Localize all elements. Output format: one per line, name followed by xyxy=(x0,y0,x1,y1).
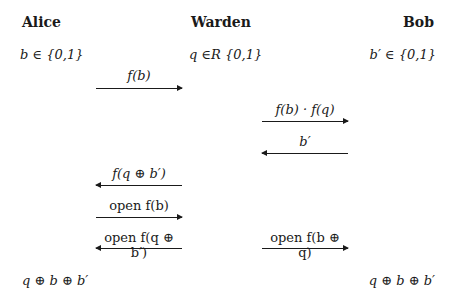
message-label-4: f(q ⊕ b′) xyxy=(96,166,182,181)
message-label-6: open f(q ⊕ b′) xyxy=(96,230,182,260)
message-label-3: b′ xyxy=(262,134,348,149)
bob-init: b′ ∈ {0,1} xyxy=(370,47,436,62)
arrow-right-icon xyxy=(262,121,348,122)
warden-init: q ∈R {0,1} xyxy=(189,47,262,62)
alice-init: b ∈ {0,1} xyxy=(20,47,83,62)
arrow-left-icon xyxy=(262,153,348,154)
header-alice: Alice xyxy=(22,14,61,30)
message-label-2: f(b) · f(q) xyxy=(262,102,348,117)
header-bob: Bob xyxy=(403,14,434,30)
alice-result: q ⊕ b ⊕ b′ xyxy=(22,273,88,288)
arrow-right-icon xyxy=(262,248,348,249)
message-label-7: open f(b ⊕ q) xyxy=(262,230,348,260)
arrow-right-icon xyxy=(96,88,182,89)
header-warden: Warden xyxy=(191,14,251,30)
message-label-1: f(b) xyxy=(96,68,182,83)
bob-result: q ⊕ b ⊕ b′ xyxy=(369,273,435,288)
arrow-right-icon xyxy=(96,217,182,218)
arrow-left-icon xyxy=(96,185,182,186)
arrow-left-icon xyxy=(96,248,182,249)
message-label-5: open f(b) xyxy=(96,198,182,213)
